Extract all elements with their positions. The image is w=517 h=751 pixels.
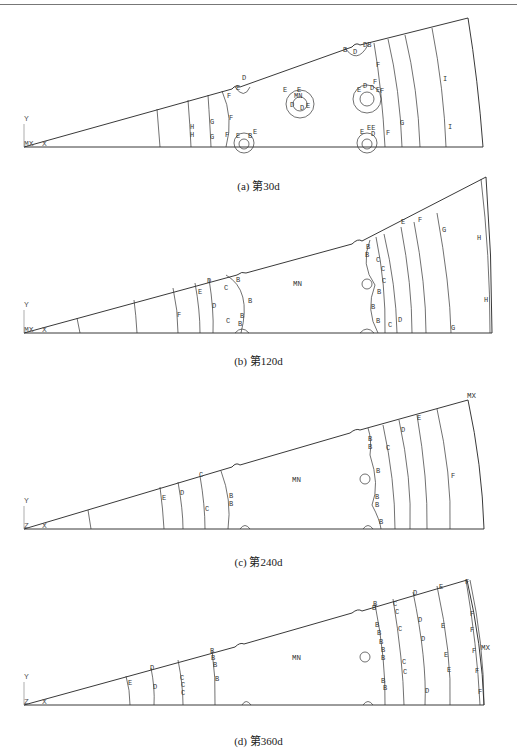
svg-text:B: B — [375, 501, 379, 509]
svg-text:G: G — [400, 119, 404, 127]
svg-text:C: C — [398, 625, 402, 633]
svg-text:B: B — [377, 288, 381, 296]
svg-text:Z: Z — [24, 697, 29, 706]
svg-text:B: B — [372, 604, 376, 612]
svg-text:X: X — [42, 139, 47, 148]
svg-text:D: D — [290, 101, 294, 109]
svg-text:E: E — [439, 583, 443, 591]
svg-text:E: E — [401, 218, 405, 226]
svg-text:B: B — [381, 654, 385, 662]
svg-text:Y: Y — [24, 496, 29, 505]
svg-text:D: D — [413, 589, 417, 597]
svg-text:D: D — [207, 277, 211, 285]
svg-text:B: B — [366, 243, 370, 251]
svg-text:C: C — [181, 681, 185, 689]
svg-text:E: E — [417, 414, 421, 422]
svg-text:F: F — [470, 626, 474, 634]
contour-plot-b: F E DD CC BBBB MN BB CCC BBB CD EF GG HH… — [0, 160, 517, 340]
svg-text:D: D — [242, 74, 246, 82]
svg-text:B: B — [383, 684, 387, 692]
svg-text:F: F — [386, 129, 390, 137]
svg-text:D: D — [353, 48, 357, 56]
svg-text:Y: Y — [24, 114, 29, 123]
svg-text:Z: Z — [24, 521, 29, 530]
svg-text:E: E — [357, 86, 361, 94]
svg-text:F: F — [451, 472, 455, 480]
svg-text:F: F — [478, 688, 482, 696]
svg-text:G: G — [451, 324, 455, 332]
svg-text:E: E — [128, 679, 132, 687]
svg-text:G: G — [442, 226, 446, 234]
svg-text:F: F — [470, 610, 474, 618]
svg-text:F: F — [380, 87, 384, 95]
svg-text:D: D — [180, 489, 184, 497]
svg-text:I: I — [443, 75, 447, 83]
svg-text:D: D — [150, 664, 154, 672]
svg-text:E: E — [198, 288, 202, 296]
svg-text:B: B — [343, 46, 347, 54]
svg-text:F: F — [376, 61, 380, 69]
svg-text:F: F — [465, 578, 469, 586]
svg-text:MX: MX — [467, 392, 477, 400]
svg-text:D: D — [153, 683, 157, 691]
svg-text:B: B — [213, 661, 217, 669]
svg-text:B: B — [376, 467, 380, 475]
svg-text:E: E — [253, 128, 257, 136]
caption-b: (b) 第120d — [0, 352, 517, 368]
svg-text:B: B — [375, 493, 379, 501]
svg-text:MN: MN — [292, 654, 301, 662]
svg-text:B: B — [368, 443, 372, 451]
svg-text:X: X — [42, 697, 47, 706]
svg-text:D: D — [421, 635, 425, 643]
svg-text:F: F — [475, 667, 479, 675]
svg-text:C: C — [382, 277, 386, 285]
svg-text:X: X — [42, 521, 47, 530]
svg-text:H: H — [477, 234, 481, 242]
svg-text:B: B — [240, 312, 244, 320]
svg-text:I: I — [448, 123, 452, 131]
caption-d: (d) 第360d — [0, 732, 517, 748]
svg-text:B: B — [248, 297, 252, 305]
svg-text:F: F — [177, 311, 181, 319]
svg-text:DB: DB — [363, 41, 371, 49]
svg-text:MN: MN — [293, 280, 302, 288]
svg-text:B: B — [229, 500, 233, 508]
svg-text:X: X — [42, 325, 47, 334]
contour-plot-d: E DD CCC BBBB MN BB BBBBB BB CCCCC DDDD … — [0, 560, 517, 725]
panel-d: E DD CCC BBBB MN BB BBBBB BB CCCCC DDDD … — [0, 560, 517, 751]
svg-text:D: D — [371, 130, 375, 138]
svg-text:C: C — [181, 689, 185, 697]
svg-text:E: E — [447, 666, 451, 674]
svg-text:G: G — [210, 133, 214, 141]
svg-text:MN: MN — [294, 92, 302, 100]
svg-text:D: D — [398, 316, 402, 324]
svg-text:B: B — [375, 621, 379, 629]
svg-text:C: C — [388, 321, 392, 329]
svg-text:C: C — [226, 317, 230, 325]
svg-text:C: C — [402, 658, 406, 666]
svg-text:F: F — [225, 131, 229, 139]
panel-c: E D CC BB MN BB C B BB B D E F MX Y Z X … — [0, 380, 517, 565]
svg-text:C: C — [386, 444, 390, 452]
svg-text:H: H — [190, 131, 194, 139]
svg-text:F: F — [227, 92, 231, 100]
svg-text:C: C — [224, 284, 228, 292]
svg-text:F: F — [472, 647, 476, 655]
svg-text:B: B — [379, 638, 383, 646]
svg-text:B: B — [215, 675, 219, 683]
svg-text:C: C — [393, 600, 397, 608]
svg-text:Y: Y — [24, 672, 29, 681]
svg-text:B: B — [248, 132, 252, 140]
svg-text:E: E — [306, 102, 310, 110]
svg-text:D: D — [425, 687, 429, 695]
svg-text:MX: MX — [24, 325, 34, 334]
svg-text:E: E — [441, 622, 445, 630]
svg-text:B: B — [229, 492, 233, 500]
svg-text:E: E — [444, 651, 448, 659]
svg-text:B: B — [379, 518, 383, 526]
svg-text:E: E — [236, 84, 240, 92]
svg-text:B: B — [377, 629, 381, 637]
svg-text:B: B — [381, 646, 385, 654]
svg-text:MX: MX — [24, 139, 34, 148]
svg-text:B: B — [368, 435, 372, 443]
